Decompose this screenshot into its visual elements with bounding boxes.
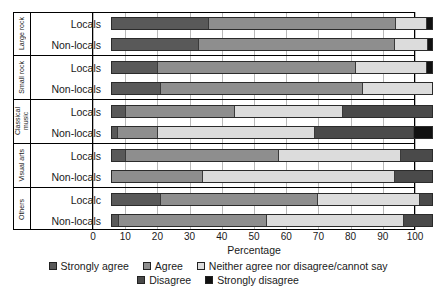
x-tick-60: 60 — [281, 231, 292, 242]
group-label: Others — [13, 188, 31, 232]
bar-row-label: Non-locals — [31, 210, 106, 231]
legend-label: Strongly disagree — [217, 273, 299, 287]
legend-row: DisagreeStrongly disagree — [0, 273, 436, 287]
bar-track — [111, 122, 433, 143]
bar-row: Locals — [31, 145, 415, 166]
legend-label: Agree — [155, 259, 183, 273]
bar-segment — [112, 83, 160, 94]
legend: Strongly agreeAgreeNeither agree nor dis… — [0, 259, 436, 287]
legend-item[interactable]: Neither agree nor disagree/cannot say — [197, 259, 388, 273]
bar-group: OthersLocalcNon-locals — [13, 188, 415, 232]
legend-swatch-icon — [143, 262, 151, 270]
bar-segment — [395, 18, 425, 29]
legend-item[interactable]: Disagree — [137, 273, 191, 287]
bar-segment — [278, 150, 400, 161]
bar-segment — [394, 39, 428, 50]
bar-row: Non-locals — [31, 78, 415, 99]
bar-row: Non-locals — [31, 210, 415, 231]
legend-item[interactable]: Strongly disagree — [205, 273, 299, 287]
group-label: Small rock — [13, 56, 31, 99]
legend-swatch-icon — [205, 276, 213, 284]
bar-segment — [403, 215, 432, 226]
bar-row: Locals — [31, 13, 415, 34]
group-label: Large rock — [13, 12, 31, 55]
bar-track — [111, 34, 433, 55]
bar-segment — [317, 194, 419, 205]
legend-row: Strongly agreeAgreeNeither agree nor dis… — [0, 259, 436, 273]
bar-row-label: Non-locals — [31, 78, 106, 99]
stacked-bar — [111, 17, 433, 30]
bar-track — [111, 101, 433, 122]
x-tick-90: 90 — [377, 231, 388, 242]
stacked-bar — [111, 193, 433, 206]
bar-segment — [342, 106, 432, 117]
bar-track — [111, 13, 433, 34]
bar-segment — [427, 39, 432, 50]
legend-label: Neither agree nor disagree/cannot say — [209, 259, 388, 273]
legend-swatch-icon — [197, 262, 205, 270]
stacked-bar — [111, 38, 433, 51]
group-label-text: Small rock — [18, 61, 26, 94]
bar-row: Locals — [31, 57, 415, 78]
bar-segment — [125, 106, 234, 117]
bar-row-label: Non-locals — [31, 34, 106, 55]
bar-track — [111, 78, 433, 99]
legend-label: Disagree — [149, 273, 191, 287]
legend-swatch-icon — [137, 276, 145, 284]
bar-track — [111, 145, 433, 166]
bar-row-label: Non-locals — [31, 166, 106, 187]
bar-segment — [266, 215, 404, 226]
bar-group: Large rockLocalsNon-locals — [13, 12, 415, 56]
bar-segment — [362, 83, 432, 94]
bar-segment — [160, 83, 362, 94]
bar-segment — [160, 194, 317, 205]
bar-group: Visual artsLocalsNon-locals — [13, 144, 415, 188]
bar-segment — [112, 18, 208, 29]
group-label-text: Large rock — [18, 17, 26, 50]
stacked-bar — [111, 82, 433, 95]
x-tick-40: 40 — [216, 231, 227, 242]
bar-row: Non-locals — [31, 34, 415, 55]
bar-segment — [112, 106, 125, 117]
x-axis-title: Percentage — [93, 244, 415, 256]
bar-row: Localc — [31, 189, 415, 210]
bar-segment — [202, 171, 394, 182]
bar-segment — [112, 171, 202, 182]
x-tick-0: 0 — [90, 231, 96, 242]
stacked-bar — [111, 149, 433, 162]
legend-item[interactable]: Agree — [143, 259, 183, 273]
bar-segment — [157, 62, 355, 73]
bar-segment — [125, 150, 279, 161]
bar-segment — [419, 194, 432, 205]
bar-row-label: Locals — [31, 145, 106, 166]
bar-segment — [157, 127, 314, 138]
x-tick-20: 20 — [152, 231, 163, 242]
bar-segment — [198, 39, 393, 50]
group-label-text: Others — [18, 199, 26, 220]
bar-row-label: Locals — [31, 57, 106, 78]
bar-segment — [314, 127, 413, 138]
stacked-bar-chart: Large rockLocalsNon-localsSmall rockLoca… — [0, 0, 436, 303]
bar-track — [111, 57, 433, 78]
x-tick-70: 70 — [313, 231, 324, 242]
x-tick-10: 10 — [120, 231, 131, 242]
legend-item[interactable]: Strongly agree — [49, 259, 129, 273]
bar-track — [111, 189, 433, 210]
stacked-bar — [111, 61, 433, 74]
stacked-bar — [111, 170, 433, 183]
bar-segment — [400, 150, 432, 161]
bar-row-label: Locals — [31, 13, 106, 34]
bar-segment — [413, 127, 432, 138]
bar-segment — [426, 62, 432, 73]
group-label: Classical music — [13, 100, 31, 143]
stacked-bar — [111, 126, 433, 139]
bar-group: Small rockLocalsNon-locals — [13, 56, 415, 100]
bar-track — [111, 166, 433, 187]
x-tick-80: 80 — [345, 231, 356, 242]
bar-segment — [112, 194, 160, 205]
bar-row-label: Locals — [31, 101, 106, 122]
bar-segment — [117, 127, 157, 138]
bar-row: Non-locals — [31, 166, 415, 187]
bar-segment — [394, 171, 432, 182]
bar-segment — [426, 18, 432, 29]
